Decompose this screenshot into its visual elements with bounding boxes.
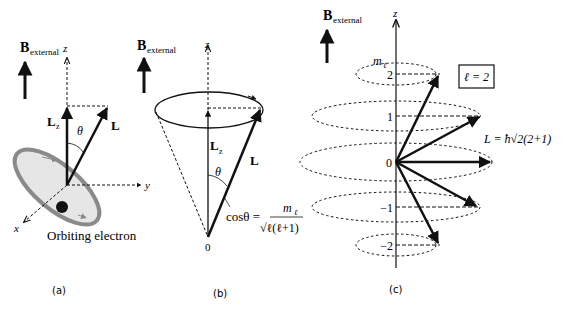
caption-a: (a) bbox=[52, 285, 66, 296]
ml-level-lines bbox=[396, 74, 481, 245]
l-label-a: L bbox=[111, 118, 120, 133]
svg-text:√ℓ(ℓ+1): √ℓ(ℓ+1) bbox=[260, 221, 299, 235]
l-vector-ml-1 bbox=[396, 117, 479, 162]
precession-cone-top bbox=[155, 92, 263, 128]
y-axis-label: y bbox=[144, 179, 150, 191]
panel-c: B external z m ℓ 2 1 0 −1 bbox=[300, 7, 551, 295]
svg-text:cosθ =: cosθ = bbox=[226, 209, 260, 224]
panel-b: B external z L z L θ cosθ = m ℓ √ℓ(ℓ+1) … bbox=[137, 38, 303, 299]
svg-text:2: 2 bbox=[387, 68, 393, 82]
l-magnitude-formula: L = ħ√2(2+1) bbox=[483, 132, 551, 146]
b-subscript: external bbox=[30, 47, 59, 57]
svg-text:L: L bbox=[47, 114, 56, 129]
svg-text:B: B bbox=[323, 8, 332, 23]
svg-text:external: external bbox=[333, 15, 362, 25]
svg-text:L: L bbox=[210, 138, 219, 153]
theta-arc-a bbox=[67, 143, 83, 152]
l-vector-a bbox=[67, 108, 107, 185]
svg-text:−2: −2 bbox=[380, 239, 393, 253]
lz-label-b: L z bbox=[210, 138, 223, 156]
theta-label-a: θ bbox=[77, 124, 83, 138]
theta-label-b: θ bbox=[215, 165, 221, 179]
caption-b: (b) bbox=[213, 288, 227, 299]
b-external-label-b: B external bbox=[137, 38, 176, 55]
electron-orbit bbox=[3, 137, 111, 238]
angular-momentum-figure: B external z y x L z L θ Orbiting electr… bbox=[0, 0, 569, 313]
l-value-label: ℓ = 2 bbox=[464, 70, 489, 84]
svg-text:ℓ: ℓ bbox=[294, 208, 298, 217]
svg-text:0: 0 bbox=[386, 156, 392, 170]
origin-label-b: 0 bbox=[205, 241, 211, 253]
b-external-label: B external bbox=[20, 40, 59, 57]
ml-axis-label: m ℓ bbox=[373, 54, 387, 70]
x-axis-label: x bbox=[13, 222, 19, 234]
ml-tick-labels: 2 1 0 −1 −2 bbox=[380, 68, 393, 253]
orbiting-electron-label: Orbiting electron bbox=[47, 228, 137, 243]
formula-pointer bbox=[224, 197, 230, 207]
svg-text:external: external bbox=[147, 45, 176, 55]
l-label-b: L bbox=[250, 153, 259, 168]
cos-theta-formula: cosθ = m ℓ √ℓ(ℓ+1) bbox=[226, 201, 303, 235]
z-axis-label-b: z bbox=[204, 38, 210, 50]
svg-text:m: m bbox=[283, 201, 292, 215]
svg-text:z: z bbox=[219, 147, 223, 156]
b-symbol: B bbox=[20, 40, 29, 55]
svg-text:z: z bbox=[56, 122, 60, 131]
panel-a: B external z y x L z L θ Orbiting electr… bbox=[3, 40, 150, 296]
caption-c: (c) bbox=[389, 284, 402, 295]
cone-edge-dashed bbox=[156, 112, 208, 237]
electron-dot bbox=[56, 201, 68, 213]
svg-text:−1: −1 bbox=[380, 201, 393, 215]
svg-text:m: m bbox=[373, 54, 382, 68]
lz-label-a: L z bbox=[47, 114, 60, 131]
svg-text:1: 1 bbox=[387, 110, 393, 124]
z-axis-label: z bbox=[62, 42, 68, 54]
z-axis-label-c: z bbox=[392, 7, 398, 19]
svg-text:B: B bbox=[137, 38, 146, 53]
b-external-label-c: B external bbox=[323, 8, 362, 25]
l-vector-ml-2 bbox=[396, 76, 438, 162]
